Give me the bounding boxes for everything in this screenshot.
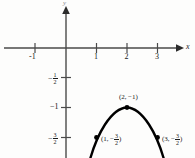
point-label-vertex: (2, −1) [119, 94, 138, 101]
comma: , [107, 135, 109, 143]
fraction-three-halves: 32 [114, 133, 119, 147]
y-tick-label-neg-one: −1 [50, 103, 59, 111]
fraction-three-halves: 32 [175, 133, 180, 147]
y-tick-label-neg-three-halves: −32 [48, 132, 58, 146]
comma: , [168, 135, 170, 143]
comma: , [125, 93, 127, 101]
x-tick-label-2: 2 [125, 53, 129, 61]
paren-close: ) [119, 135, 121, 143]
y-tick-label-neg-half: −12 [48, 72, 58, 86]
x-axis-label: x [186, 43, 190, 51]
y-axis-arrowhead [62, 6, 70, 14]
point-marker-vertex [125, 105, 130, 110]
x-axis-arrowhead [176, 44, 184, 52]
point-label-right: (3, −32) [162, 133, 182, 147]
y-axis-label: y [63, 0, 66, 7]
x-tick-label-1: 1 [94, 53, 98, 61]
value-one: 1 [55, 102, 59, 111]
parabola-figure: x y -1 1 2 3 −12 −1 −32 (2, −1) (1, −32)… [0, 0, 195, 158]
fraction-three-halves: 32 [53, 132, 58, 146]
x-tick-label-3: 3 [155, 53, 159, 61]
paren-close: ) [180, 135, 182, 143]
point-marker-left [94, 135, 99, 140]
point-marker-right [155, 135, 160, 140]
point-label-left: (1, −32) [101, 133, 121, 147]
fraction-one-half: 12 [53, 72, 58, 86]
x-tick-label-neg1: -1 [29, 53, 36, 61]
paren-close: ) [135, 93, 137, 101]
